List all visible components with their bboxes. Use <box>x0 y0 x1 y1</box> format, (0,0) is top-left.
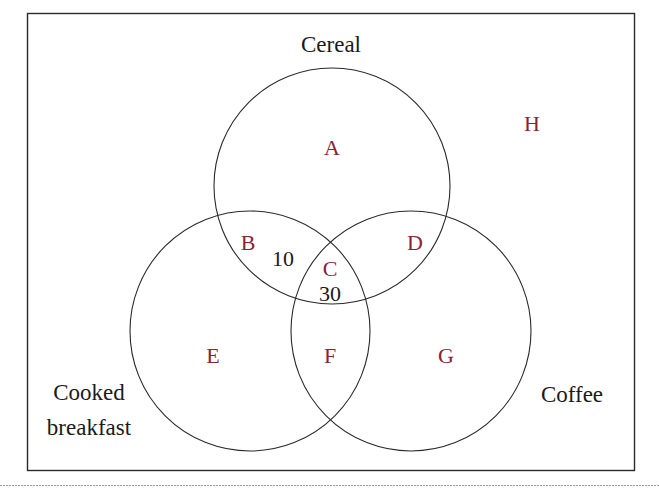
region-label-f: F <box>324 343 336 368</box>
region-label-c: C <box>323 256 338 281</box>
region-count-c: 30 <box>319 281 341 306</box>
venn-diagram: Cereal Cooked breakfast Coffee A B C D E… <box>0 0 659 500</box>
region-label-e: E <box>206 343 219 368</box>
region-label-b: B <box>241 230 256 255</box>
region-label-g: G <box>438 343 454 368</box>
set-label-cooked: Cooked <box>53 380 125 405</box>
region-label-a: A <box>324 135 340 160</box>
region-label-d: D <box>407 230 423 255</box>
set-label-coffee: Coffee <box>541 382 603 407</box>
region-count-b: 10 <box>272 246 294 271</box>
set-label-cereal: Cereal <box>301 32 361 57</box>
set-label-breakfast: breakfast <box>47 415 132 440</box>
region-label-h: H <box>524 111 540 136</box>
